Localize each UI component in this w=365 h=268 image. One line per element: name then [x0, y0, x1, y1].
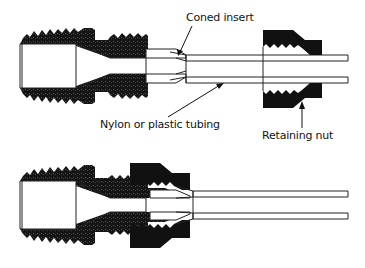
- tubing-arrowhead: [216, 83, 224, 89]
- label-retaining-nut: Retaining nut: [262, 129, 333, 142]
- retaining-nut-upper: [263, 30, 322, 55]
- label-coned-insert: Coned insert: [186, 11, 254, 24]
- tubing-leader: [168, 85, 220, 117]
- label-tubing: Nylon or plastic tubing: [100, 118, 220, 131]
- bottom-assembly: [20, 163, 348, 248]
- tubing-bottom-wall: [193, 213, 348, 219]
- coned-insert-lower: [150, 212, 190, 220]
- coned-insert-leader: [180, 26, 192, 52]
- tubing-top-wall: [193, 191, 348, 197]
- tubing-bottom-wall: [186, 77, 348, 83]
- coned-insert: [150, 190, 190, 198]
- retaining-nut-lower: [263, 83, 322, 108]
- top-assembly: [20, 26, 348, 128]
- tubing-top-wall: [186, 55, 348, 61]
